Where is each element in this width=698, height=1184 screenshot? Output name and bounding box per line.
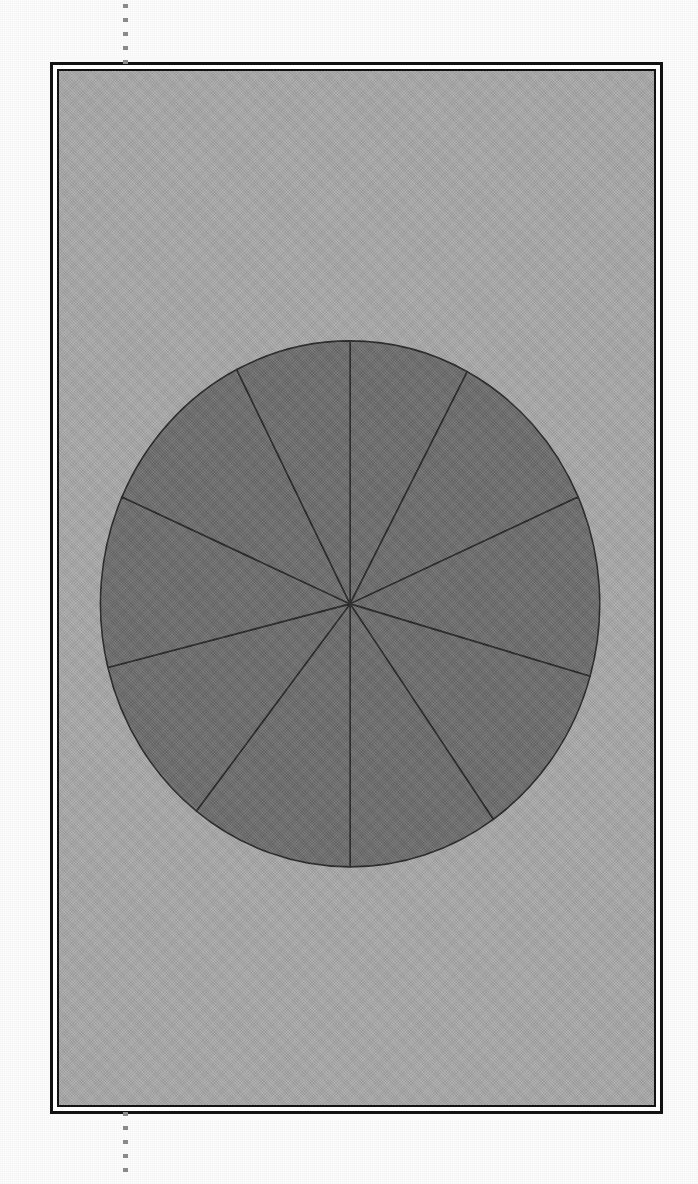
- pie-chart: [59, 71, 654, 1105]
- crop-registration-guide-top: [123, 4, 128, 70]
- page-canvas: [0, 0, 698, 1184]
- pie-chart-svg: [59, 71, 654, 1105]
- crop-registration-guide-bottom: [123, 1112, 128, 1182]
- figure-frame-inner: [57, 69, 656, 1107]
- pie-wedge-group: [100, 341, 599, 867]
- figure-frame-outer: [50, 62, 663, 1114]
